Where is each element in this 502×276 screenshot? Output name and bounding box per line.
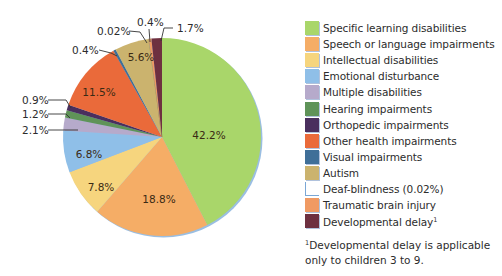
legend-swatch (305, 85, 319, 99)
slice-callout-label: 0.4% (72, 44, 99, 56)
legend-label: Traumatic brain injury (323, 198, 436, 212)
legend-label: Visual impairments (323, 150, 422, 164)
legend-swatch (305, 53, 319, 67)
slice-callout-label: 0.02% (97, 25, 130, 37)
footnote: 1Developmental delay is applicable only … (305, 236, 502, 268)
legend-item-hearing-impairments: Hearing impairments (305, 101, 432, 117)
legend-swatch (305, 134, 319, 148)
legend-label: Deaf-blindness (0.02%) (323, 182, 443, 196)
legend-item-visual-impairments: Visual impairments (305, 149, 422, 165)
legend-item-orthopedic-impairments: Orthopedic impairments (305, 117, 449, 133)
legend-item-autism: Autism (305, 165, 359, 181)
pie-slices (63, 38, 261, 236)
legend-item-other-health-impairments: Other health impairments (305, 133, 457, 149)
legend-swatch (305, 166, 319, 180)
legend-swatch (305, 214, 319, 228)
legend-item-multiple-disabilities: Multiple disabilities (305, 84, 422, 100)
legend-label: Speech or language impairments (323, 37, 495, 51)
legend-swatch (305, 37, 319, 51)
legend-label: Other health impairments (323, 134, 457, 148)
legend-item-intellectual-disabilities: Intellectual disabilities (305, 52, 438, 68)
legend-item-speech-or-language-impairments: Speech or language impairments (305, 36, 495, 52)
footnote-mark: 1 (433, 216, 437, 224)
footnote-text: Developmental delay is applicable only t… (305, 239, 490, 266)
slice-callout-label: 1.2% (22, 108, 49, 120)
slice-value-label: 18.8% (142, 193, 175, 205)
legend-label: Autism (323, 166, 359, 180)
legend-label: Emotional disturbance (323, 69, 439, 83)
legend-swatch (305, 150, 319, 164)
legend-label: Specific learning disabilities (323, 21, 466, 35)
slice-callout-label: 1.7% (177, 22, 204, 34)
legend-item-developmental-delay: Developmental delay1 (305, 213, 437, 229)
legend-label: Developmental delay1 (323, 213, 437, 229)
slice-callout-label: 0.9% (22, 94, 49, 106)
slice-callout-label: 0.4% (137, 16, 164, 28)
leader-line (48, 100, 71, 108)
slice-callout-label: 2.1% (22, 124, 49, 136)
slice-value-label: 6.8% (76, 148, 103, 160)
legend-swatch (305, 69, 319, 83)
legend-label: Multiple disabilities (323, 85, 422, 99)
legend-item-traumatic-brain-injury: Traumatic brain injury (305, 197, 436, 213)
legend-item-deaf-blindness-0-02: Deaf-blindness (0.02%) (305, 181, 443, 197)
slice-value-label: 7.8% (88, 181, 115, 193)
legend-swatch (305, 102, 319, 116)
slice-value-label: 5.6% (128, 51, 155, 63)
legend-swatch (305, 21, 319, 35)
legend-item-emotional-disturbance: Emotional disturbance (305, 68, 439, 84)
legend-item-specific-learning-disabilities: Specific learning disabilities (305, 20, 466, 36)
legend-swatch (305, 182, 319, 196)
legend-swatch (305, 198, 319, 212)
slice-value-label: 42.2% (192, 129, 225, 141)
legend-label: Hearing impairments (323, 102, 432, 116)
slice-value-label: 11.5% (82, 86, 115, 98)
legend-label: Intellectual disabilities (323, 53, 438, 67)
legend-label: Orthopedic impairments (323, 118, 449, 132)
legend-swatch (305, 118, 319, 132)
